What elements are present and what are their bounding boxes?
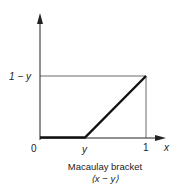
y-level-label: 1 − y xyxy=(9,72,31,82)
one-tick-label: 1 xyxy=(143,143,149,153)
origin-label: 0 xyxy=(31,144,37,154)
x-axis-arrow-icon xyxy=(155,135,166,141)
caption-formula: ⟨x − y⟩ xyxy=(50,173,160,184)
y-axis-arrow-icon xyxy=(37,13,43,24)
macaulay-curve xyxy=(40,76,146,138)
caption-title: Macaulay bracket xyxy=(50,161,160,172)
x-axis-label: x xyxy=(164,143,169,153)
y-tick-label: y xyxy=(82,145,87,155)
